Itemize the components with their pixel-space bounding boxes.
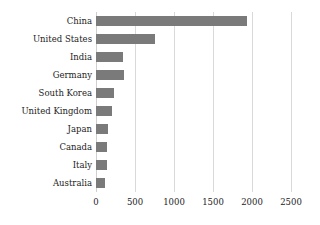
bar [96, 52, 123, 62]
category-label: Italy [73, 156, 92, 174]
bar-row [96, 66, 291, 84]
bar [96, 88, 114, 98]
bar-row [96, 84, 291, 102]
tick-label: 0 [93, 196, 98, 208]
tick-label: 1000 [163, 196, 185, 208]
tick-label: 2000 [241, 196, 263, 208]
category-label: Canada [59, 138, 92, 156]
category-label: United States [33, 30, 92, 48]
bar-row [96, 12, 291, 30]
category-label: South Korea [39, 84, 92, 102]
bar-row [96, 120, 291, 138]
bar [96, 34, 155, 44]
category-label: India [70, 48, 92, 66]
bar [96, 124, 108, 134]
plot-area [96, 12, 291, 192]
category-label: Japan [68, 120, 92, 138]
tick-label: 500 [127, 196, 143, 208]
tick-label: 2500 [280, 196, 302, 208]
tick-label: 1500 [202, 196, 224, 208]
category-axis-labels: ChinaUnited StatesIndiaGermanySouth Kore… [0, 12, 92, 192]
bar-row [96, 102, 291, 120]
category-label: China [67, 12, 92, 30]
bar-row [96, 138, 291, 156]
bar-row [96, 156, 291, 174]
bar-row [96, 174, 291, 192]
gridline-2500 [291, 12, 292, 192]
value-axis-tick-labels: 05001000150020002500 [96, 196, 291, 210]
bar [96, 106, 112, 116]
bar [96, 178, 105, 188]
bar [96, 16, 247, 26]
category-label: Germany [53, 66, 92, 84]
bar [96, 142, 107, 152]
category-label: Australia [53, 174, 92, 192]
bar-chart: ChinaUnited StatesIndiaGermanySouth Kore… [0, 0, 320, 225]
bar-row [96, 30, 291, 48]
bar [96, 70, 124, 80]
category-label: United Kingdom [21, 102, 92, 120]
bar [96, 160, 107, 170]
bar-row [96, 48, 291, 66]
